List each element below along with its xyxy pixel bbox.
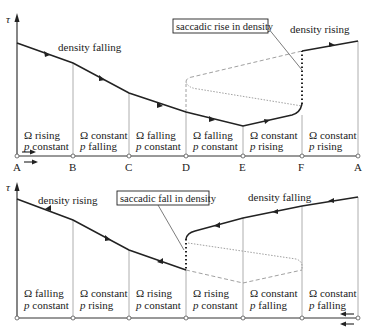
svg-text:B: B — [69, 161, 76, 173]
top-saccadic-label: saccadic rise in density — [176, 21, 274, 32]
svg-text:p constant: p constant — [135, 299, 181, 311]
svg-text:F: F — [298, 161, 304, 173]
hysteresis-diagram: τ — [0, 0, 370, 327]
svg-text:A: A — [354, 161, 362, 173]
top-direction-arrow-icons — [44, 42, 335, 124]
top-main-curve — [17, 43, 302, 126]
svg-text:p rising: p rising — [249, 140, 284, 152]
bottom-unstable-branch — [186, 243, 302, 283]
bottom-tau-label: τ — [6, 181, 11, 193]
svg-text:p falling: p falling — [249, 299, 287, 311]
svg-text:Ω constant: Ω constant — [309, 287, 357, 299]
svg-text:p constant: p constant — [23, 140, 69, 152]
svg-text:C: C — [125, 161, 132, 173]
top-density-rising-label: density rising — [290, 23, 350, 35]
svg-text:Ω rising: Ω rising — [193, 287, 229, 299]
svg-text:p constant: p constant — [23, 299, 69, 311]
point-letters: A B C D E F A — [13, 161, 362, 173]
svg-text:A: A — [13, 161, 21, 173]
bottom-panel: τ density rising density fa — [6, 181, 360, 327]
top-y-axis-arrow-icon — [15, 13, 20, 22]
top-density-falling-label: density falling — [58, 41, 122, 53]
svg-text:Ω constant: Ω constant — [80, 287, 128, 299]
bottom-density-falling-label: density falling — [248, 191, 312, 203]
top-panel: τ — [6, 13, 362, 173]
svg-text:p constant: p constant — [192, 299, 238, 311]
svg-text:p falling: p falling — [79, 140, 117, 152]
svg-text:p rising: p rising — [79, 299, 114, 311]
svg-text:p falling: p falling — [308, 299, 346, 311]
svg-text:Ω rising: Ω rising — [136, 287, 172, 299]
bottom-y-axis-arrow-icon — [15, 182, 20, 191]
svg-text:D: D — [182, 161, 190, 173]
bottom-saccadic-pointer — [158, 205, 184, 250]
bottom-saccadic-label: saccadic fall in density — [120, 193, 217, 204]
svg-text:E: E — [239, 161, 246, 173]
bottom-density-rising-label: density rising — [38, 194, 98, 206]
bottom-baseline-arrow-icons — [340, 312, 354, 327]
svg-text:Ω falling: Ω falling — [24, 287, 64, 299]
svg-text:p rising: p rising — [308, 140, 343, 152]
top-tau-label: τ — [6, 13, 11, 25]
top-unstable-branch — [186, 51, 302, 112]
svg-text:Ω constant: Ω constant — [250, 287, 298, 299]
svg-text:p constant: p constant — [192, 140, 238, 152]
svg-text:p constant: p constant — [135, 140, 181, 152]
